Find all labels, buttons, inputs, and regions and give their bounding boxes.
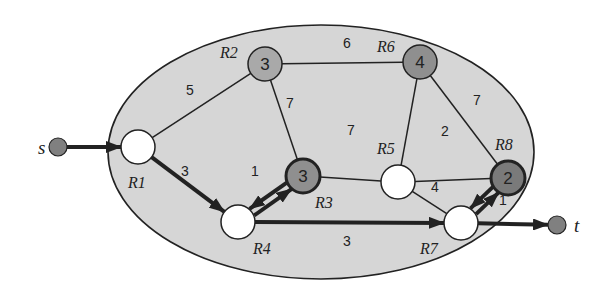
router-label: R6 (376, 38, 395, 55)
endpoint-circle (548, 216, 566, 234)
edge-weight-R1-R2: 5 (186, 82, 194, 98)
router-circle (381, 165, 415, 199)
edge-weight-R2-R6: 6 (343, 35, 351, 51)
router-label: R8 (494, 136, 513, 153)
router-circle (121, 130, 155, 164)
router-value: 3 (298, 167, 307, 186)
network-routing-diagram: 56777243131 R13R23R3R4R54R6R72R8st (0, 0, 609, 287)
router-label: R4 (252, 240, 271, 257)
path-arrow-R7-t (478, 223, 548, 224)
router-label: R3 (314, 194, 333, 211)
edge-weight-R4-R7: 3 (343, 233, 351, 249)
endpoint-t: t (548, 215, 580, 236)
router-circle (221, 205, 255, 239)
router-label: R7 (419, 240, 439, 257)
path-arrow-R4-R7 (255, 222, 444, 223)
router-value: 2 (503, 169, 512, 188)
endpoint-circle (49, 138, 67, 156)
router-label: R2 (219, 44, 238, 61)
edge-weight-R5-R8: 2 (441, 123, 449, 139)
endpoint-label: t (574, 215, 580, 236)
router-circle (444, 206, 478, 240)
edge-weight-R5-R7: 4 (431, 179, 439, 195)
router-value: 3 (260, 55, 269, 74)
endpoint-s: s (38, 137, 67, 158)
router-label: R1 (127, 174, 146, 191)
edge-weight-R3-R5: 7 (347, 122, 355, 138)
edge-weight-R1-R4: 3 (181, 163, 189, 179)
router-label: R5 (376, 140, 395, 157)
edge-weight-R6-R8: 7 (473, 92, 481, 108)
edge-weight-R4-R3: 1 (251, 163, 259, 179)
edge-weight-R2-R3: 7 (286, 95, 294, 111)
endpoint-label: s (38, 137, 45, 158)
router-value: 4 (415, 53, 424, 72)
